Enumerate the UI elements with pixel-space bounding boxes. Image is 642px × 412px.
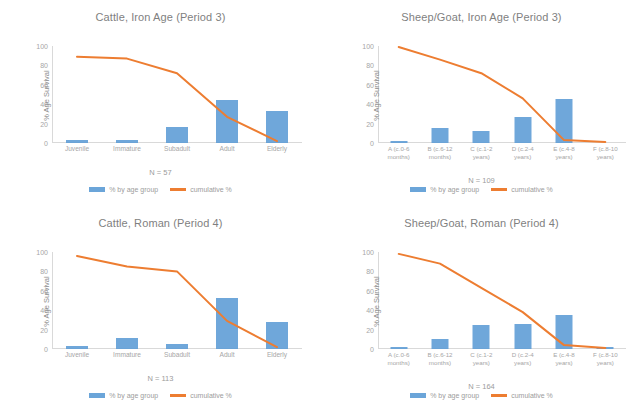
y-axis-tick: 100 (362, 43, 374, 50)
x-axis-tick-label: C (c.1-2 years) (461, 351, 502, 368)
legend-line-swatch-icon (491, 188, 507, 191)
y-axis-tick: 100 (36, 249, 48, 256)
chart-legend: % by age groupcumulative % (321, 392, 642, 399)
legend-bar-swatch-icon (410, 187, 426, 192)
legend-item-line: cumulative % (170, 392, 232, 399)
chart-panel-cattle-roman: Cattle, Roman (Period 4)020406080100% Ag… (0, 206, 321, 412)
legend-line-label: cumulative % (511, 392, 553, 399)
chart-panel-sheep-goat-roman: Sheep/Goat, Roman (Period 4)020406080100… (321, 206, 642, 412)
x-axis-tick-label: F (c.8-10 years) (585, 351, 626, 368)
chart-title: Sheep/Goat, Iron Age (Period 3) (321, 11, 642, 23)
x-axis-tick-label: F (c.8-10 years) (585, 145, 626, 162)
chart-legend: % by age groupcumulative % (321, 186, 642, 193)
chart-legend: % by age groupcumulative % (0, 186, 321, 193)
y-axis-tick: 100 (36, 43, 48, 50)
x-axis-tick-label: Adult (202, 145, 252, 153)
plot-area: 020406080100% Age Survival (378, 46, 626, 143)
legend-item-bar: % by age group (410, 392, 479, 399)
cumulative-line-series (52, 252, 302, 349)
sample-size-label: N = 164 (321, 382, 642, 391)
legend-item-bar: % by age group (410, 186, 479, 193)
chart-panel-cattle-iron-age: Cattle, Iron Age (Period 3)020406080100%… (0, 0, 321, 206)
legend-line-swatch-icon (170, 394, 186, 397)
x-axis-tick-label: Immature (102, 145, 152, 153)
legend-bar-label: % by age group (109, 186, 158, 193)
y-axis-tick: 0 (370, 140, 374, 147)
chart-title: Sheep/Goat, Roman (Period 4) (321, 217, 642, 229)
y-axis-label: % Age Survival (42, 65, 51, 125)
plot-area: 020406080100% Age Survival (52, 46, 302, 143)
cumulative-line-series (378, 46, 626, 143)
legend-line-swatch-icon (170, 188, 186, 191)
legend-bar-swatch-icon (89, 187, 105, 192)
x-axis-tick-label: Elderly (252, 351, 302, 359)
chart-title: Cattle, Roman (Period 4) (0, 217, 321, 229)
x-axis-tick-label: E (c.4-8 years) (543, 145, 584, 162)
x-axis-labels: A (c.0-6 months)B (c.6-12 months)C (c.1-… (378, 145, 626, 162)
x-axis-tick-label: Juvenile (52, 145, 102, 153)
cumulative-line-series (52, 46, 302, 143)
x-axis-tick-label: A (c.0-6 months) (378, 351, 419, 368)
x-axis-labels: JuvenileImmatureSubadultAdultElderly (52, 145, 302, 153)
chart-panel-sheep-goat-iron-age: Sheep/Goat, Iron Age (Period 3)020406080… (321, 0, 642, 206)
legend-bar-label: % by age group (430, 392, 479, 399)
x-axis-tick-label: Juvenile (52, 351, 102, 359)
x-axis-tick-label: Elderly (252, 145, 302, 153)
cumulative-line (399, 47, 606, 142)
x-axis-tick-label: Subadult (152, 351, 202, 359)
x-axis-tick-label: B (c.6-12 months) (419, 351, 460, 368)
sample-size-label: N = 109 (321, 176, 642, 185)
legend-item-line: cumulative % (170, 186, 232, 193)
legend-item-line: cumulative % (491, 186, 553, 193)
x-axis-tick-label: A (c.0-6 months) (378, 145, 419, 162)
legend-line-swatch-icon (491, 394, 507, 397)
legend-line-label: cumulative % (190, 392, 232, 399)
x-axis-tick-label: C (c.1-2 years) (461, 145, 502, 162)
legend-bar-swatch-icon (89, 393, 105, 398)
chart-figure-grid: Cattle, Iron Age (Period 3)020406080100%… (0, 0, 642, 412)
chart-title: Cattle, Iron Age (Period 3) (0, 11, 321, 23)
plot-area: 020406080100% Age Survival (378, 252, 626, 349)
legend-bar-label: % by age group (109, 392, 158, 399)
cumulative-line-series (378, 252, 626, 349)
cumulative-line (77, 57, 277, 141)
legend-item-bar: % by age group (89, 186, 158, 193)
x-axis-tick-label: D (c.2-4 years) (502, 145, 543, 162)
y-axis-tick: 0 (44, 140, 48, 147)
cumulative-line (399, 254, 606, 348)
x-axis-labels: JuvenileImmatureSubadultAdultElderly (52, 351, 302, 359)
legend-bar-swatch-icon (410, 393, 426, 398)
sample-size-label: N = 113 (0, 374, 321, 383)
x-axis-tick-label: Immature (102, 351, 152, 359)
legend-bar-label: % by age group (430, 186, 479, 193)
chart-legend: % by age groupcumulative % (0, 392, 321, 399)
y-axis-label: % Age Survival (42, 271, 51, 331)
x-axis-tick-label: B (c.6-12 months) (419, 145, 460, 162)
x-axis-tick-label: D (c.2-4 years) (502, 351, 543, 368)
sample-size-label: N = 57 (0, 168, 321, 177)
y-axis-tick: 100 (362, 249, 374, 256)
x-axis-labels: A (c.0-6 months)B (c.6-12 months)C (c.1-… (378, 351, 626, 368)
x-axis-tick-label: Adult (202, 351, 252, 359)
plot-area: 020406080100% Age Survival (52, 252, 302, 349)
x-axis-tick-label: Subadult (152, 145, 202, 153)
legend-item-line: cumulative % (491, 392, 553, 399)
y-axis-tick: 0 (370, 346, 374, 353)
legend-line-label: cumulative % (190, 186, 232, 193)
cumulative-line (77, 256, 277, 347)
legend-item-bar: % by age group (89, 392, 158, 399)
x-axis-tick-label: E (c.4-8 years) (543, 351, 584, 368)
legend-line-label: cumulative % (511, 186, 553, 193)
y-axis-tick: 0 (44, 346, 48, 353)
